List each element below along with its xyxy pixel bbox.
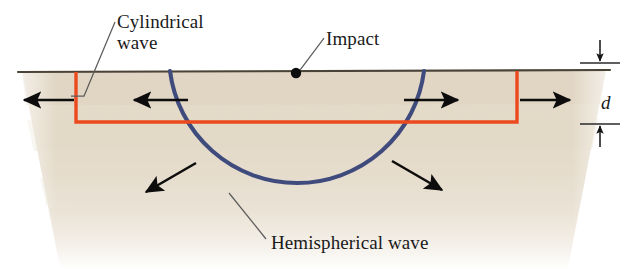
label-impact: Impact — [326, 28, 379, 49]
seismic-wave-diagram: Cylindrical wave Impact Hemispherical wa… — [0, 0, 628, 268]
label-cylindrical-wave: Cylindrical wave — [117, 11, 204, 54]
label-hemispherical-wave: Hemispherical wave — [271, 232, 428, 253]
impact-point — [291, 68, 301, 78]
diagram-canvas — [0, 0, 628, 268]
label-depth-d: d — [601, 92, 611, 114]
